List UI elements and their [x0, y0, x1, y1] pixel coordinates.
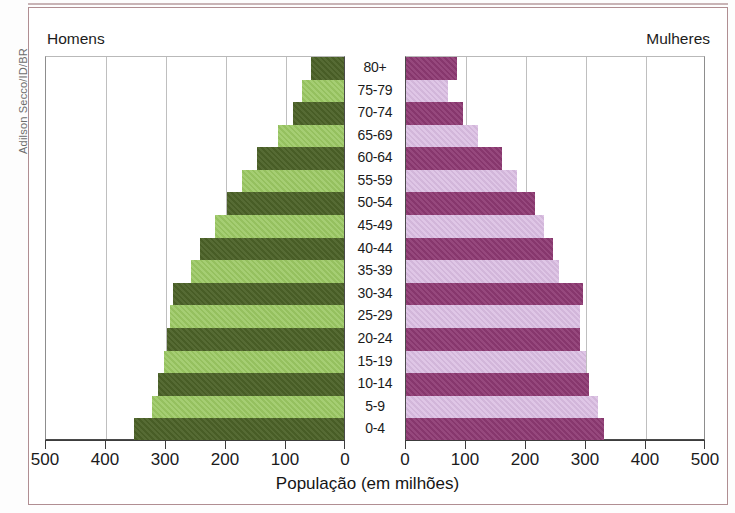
bar-row — [406, 418, 704, 441]
bar-row — [46, 170, 344, 193]
bar-row — [406, 215, 704, 238]
bar-homens-10-14 — [158, 373, 344, 396]
bar-row — [406, 57, 704, 80]
top-hairline — [28, 3, 728, 5]
bar-homens-65-69 — [278, 125, 344, 148]
bar-mulheres-40-44 — [406, 238, 553, 261]
bar-row — [406, 283, 704, 306]
age-label-75-79: 75-79 — [345, 79, 405, 102]
bar-mulheres-60-64 — [406, 147, 502, 170]
x-tick-label-0: 0 — [340, 450, 349, 470]
bar-mulheres-45-49 — [406, 215, 544, 238]
x-tick-0 — [344, 441, 345, 449]
bar-row — [406, 192, 704, 215]
bar-row — [46, 328, 344, 351]
age-label-35-39: 35-39 — [345, 259, 405, 282]
bar-row — [46, 192, 344, 215]
bar-row — [406, 238, 704, 261]
x-tick-label-400: 400 — [631, 450, 659, 470]
bar-homens-5-9 — [152, 396, 344, 419]
x-tick-300 — [585, 441, 586, 449]
bar-row — [406, 260, 704, 283]
age-label-70-74: 70-74 — [345, 101, 405, 124]
x-tick-400 — [105, 441, 106, 449]
bar-mulheres-20-24 — [406, 328, 580, 351]
bar-homens-50-54 — [227, 192, 344, 215]
age-label-25-29: 25-29 — [345, 304, 405, 327]
x-tick-label-200: 200 — [211, 450, 239, 470]
x-tick-100 — [285, 441, 286, 449]
image-credit: Adilson Secco/ID/BR — [17, 41, 29, 161]
bar-homens-45-49 — [215, 215, 344, 238]
bar-mulheres-50-54 — [406, 192, 535, 215]
age-label-30-34: 30-34 — [345, 282, 405, 305]
bar-homens-35-39 — [191, 260, 344, 283]
bar-row — [406, 102, 704, 125]
age-label-55-59: 55-59 — [345, 169, 405, 192]
bar-row — [406, 125, 704, 148]
bar-row — [406, 351, 704, 374]
bar-row — [46, 396, 344, 419]
age-label-80+: 80+ — [345, 56, 405, 79]
x-tick-label-400: 400 — [91, 450, 119, 470]
age-label-40-44: 40-44 — [345, 237, 405, 260]
age-label-5-9: 5-9 — [345, 395, 405, 418]
bar-homens-75-79 — [302, 80, 344, 103]
population-pyramid-figure: Adilson Secco/ID/BR Homens Mulheres 80+7… — [0, 0, 735, 513]
x-tick-300 — [165, 441, 166, 449]
bar-row — [406, 170, 704, 193]
bar-mulheres-80+ — [406, 57, 457, 80]
x-tick-500 — [45, 441, 46, 449]
x-tick-200 — [525, 441, 526, 449]
bar-mulheres-5-9 — [406, 396, 598, 419]
x-tick-500 — [704, 441, 705, 449]
bar-homens-60-64 — [257, 147, 344, 170]
bar-mulheres-25-29 — [406, 305, 580, 328]
x-tick-label-500: 500 — [31, 450, 59, 470]
bar-mulheres-10-14 — [406, 373, 589, 396]
bar-homens-80+ — [311, 57, 344, 80]
x-tick-label-100: 100 — [271, 450, 299, 470]
bar-row — [406, 373, 704, 396]
x-tick-label-300: 300 — [151, 450, 179, 470]
age-label-0-4: 0-4 — [345, 417, 405, 440]
x-tick-label-200: 200 — [511, 450, 539, 470]
bar-mulheres-75-79 — [406, 80, 448, 103]
age-label-10-14: 10-14 — [345, 372, 405, 395]
bar-row — [46, 373, 344, 396]
x-tick-label-0: 0 — [400, 450, 409, 470]
bar-row — [406, 396, 704, 419]
legend-label-men: Homens — [47, 30, 105, 48]
bar-row — [46, 305, 344, 328]
age-group-axis: 80+75-7970-7465-6960-6455-5950-5445-4940… — [345, 56, 405, 440]
bar-row — [406, 305, 704, 328]
bar-homens-55-59 — [242, 170, 344, 193]
bar-row — [46, 215, 344, 238]
x-axis-title: População (em milhões) — [0, 474, 735, 494]
bar-row — [46, 125, 344, 148]
bar-row — [46, 102, 344, 125]
bar-row — [46, 260, 344, 283]
bar-homens-20-24 — [167, 328, 344, 351]
bar-row — [46, 283, 344, 306]
x-tick-label-500: 500 — [691, 450, 719, 470]
age-label-50-54: 50-54 — [345, 191, 405, 214]
bars-men — [46, 57, 344, 439]
x-tick-400 — [645, 441, 646, 449]
x-tick-label-300: 300 — [571, 450, 599, 470]
age-label-65-69: 65-69 — [345, 124, 405, 147]
x-tick-100 — [465, 441, 466, 449]
bar-row — [406, 80, 704, 103]
x-tick-label-100: 100 — [451, 450, 479, 470]
bar-mulheres-65-69 — [406, 125, 478, 148]
bar-mulheres-35-39 — [406, 260, 559, 283]
bar-row — [46, 57, 344, 80]
bar-row — [46, 418, 344, 441]
bar-row — [46, 147, 344, 170]
bar-mulheres-15-19 — [406, 351, 586, 374]
bar-homens-40-44 — [200, 238, 344, 261]
bar-homens-0-4 — [134, 418, 344, 441]
x-axis-men: 5004003002001000 — [45, 440, 345, 450]
bar-mulheres-55-59 — [406, 170, 517, 193]
bar-mulheres-30-34 — [406, 283, 583, 306]
